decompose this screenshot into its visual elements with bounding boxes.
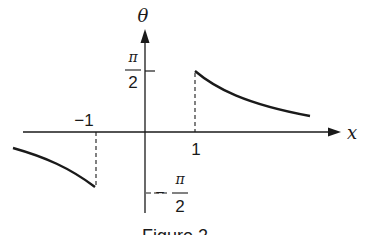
chart-figure: θ x π 2 − π 2 −1 1 Figure 2 <box>0 0 365 235</box>
pi-over-2-numerator: π <box>127 49 138 65</box>
y-axis-arrow-icon <box>141 29 150 43</box>
neg-pi-over-2-denominator: 2 <box>175 197 184 216</box>
curve-right-branch <box>195 71 310 116</box>
x-axis-arrow-icon <box>328 128 341 137</box>
x-axis-label: x <box>347 122 357 143</box>
y-axis-label: θ <box>138 5 149 26</box>
figure-caption: Figure 2 <box>142 226 208 235</box>
neg-sign: − <box>155 184 164 201</box>
pi-over-2-denominator: 2 <box>128 73 137 92</box>
neg-pi-over-2-numerator: π <box>174 171 185 187</box>
x-tick-label-1: 1 <box>191 140 200 159</box>
curve-left-branch <box>13 148 95 187</box>
x-tick-label-neg1: −1 <box>74 111 93 130</box>
